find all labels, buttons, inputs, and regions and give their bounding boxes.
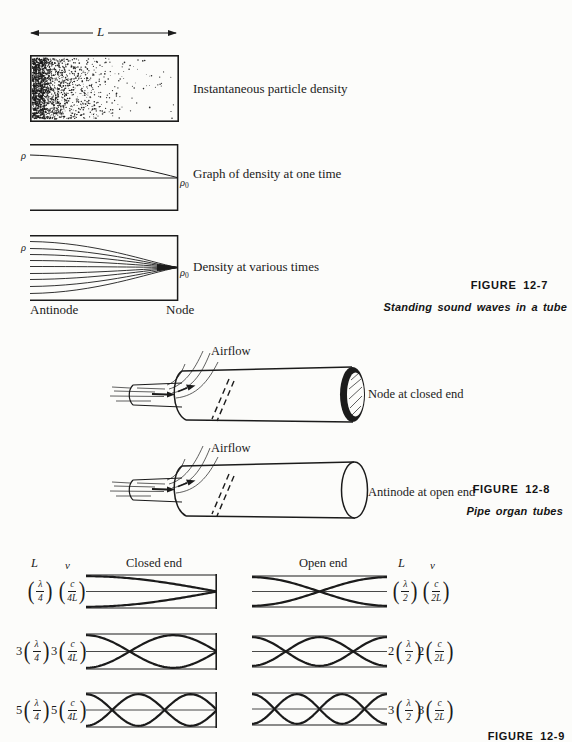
numerator: λ bbox=[36, 579, 44, 592]
close-paren bbox=[411, 578, 418, 604]
numerator: c bbox=[68, 639, 76, 652]
close-paren bbox=[43, 697, 50, 723]
coefficient: 2 bbox=[418, 644, 424, 659]
denominator: 2L bbox=[435, 711, 445, 723]
antinode-label: Antinode bbox=[30, 302, 78, 318]
node-label: Node bbox=[166, 302, 194, 318]
closed-end-column-title: Closed end bbox=[126, 556, 182, 571]
closed-row3-frequency: 5 c4L bbox=[51, 696, 87, 724]
standing-wave-closed-third-harmonic bbox=[86, 633, 217, 670]
open-column-L-header: L bbox=[398, 556, 405, 571]
open-row1-frequency: c2L bbox=[421, 577, 451, 605]
density-fan-panel bbox=[30, 235, 179, 301]
open-row1-wavelength: λ2 bbox=[391, 577, 419, 605]
numerator: λ bbox=[33, 639, 41, 652]
denominator: 2 bbox=[406, 652, 411, 664]
open-row3-wavelength: 3 λ2 bbox=[388, 696, 422, 724]
figure-12-7-label: FIGURE 12-7 bbox=[471, 279, 548, 291]
denominator: 2 bbox=[403, 592, 408, 604]
close-paren bbox=[79, 697, 86, 723]
coefficient: 5 bbox=[51, 703, 57, 718]
figure-12-8-caption: Pipe organ tubes bbox=[467, 505, 563, 517]
density-graph-panel bbox=[30, 144, 179, 211]
standing-wave-open-fundamental bbox=[252, 575, 387, 608]
close-paren bbox=[79, 578, 86, 604]
closed-row1-frequency: c4L bbox=[57, 577, 87, 605]
rho-label: ρ bbox=[21, 150, 26, 161]
close-paren bbox=[446, 697, 453, 723]
open-row2-wavelength: 2 λ2 bbox=[388, 637, 422, 665]
open-paren bbox=[426, 638, 433, 664]
closed-end-caption: Node at closed end bbox=[368, 387, 463, 402]
fraction: c2L bbox=[435, 698, 445, 723]
rho-label: ρ bbox=[21, 242, 26, 253]
close-paren bbox=[446, 638, 453, 664]
fraction: λ2 bbox=[401, 579, 409, 604]
coefficient: 3 bbox=[51, 644, 57, 659]
density-graph-caption: Graph of density at one time bbox=[193, 166, 341, 182]
closed-column-nu-header: ν bbox=[65, 559, 70, 571]
fraction: λ4 bbox=[33, 639, 41, 664]
standing-wave-closed-fundamental bbox=[86, 574, 217, 609]
close-paren bbox=[79, 638, 86, 664]
fraction: c4L bbox=[68, 698, 78, 723]
open-paren bbox=[59, 578, 66, 604]
length-label: L bbox=[93, 24, 108, 40]
open-row3-frequency: 3 c2L bbox=[418, 696, 454, 724]
open-paren bbox=[28, 578, 35, 604]
open-paren bbox=[59, 638, 66, 664]
closed-column-L-header: L bbox=[31, 556, 38, 571]
coefficient: 5 bbox=[16, 703, 22, 718]
numerator: c bbox=[435, 639, 443, 652]
fraction: λ2 bbox=[405, 698, 413, 723]
open-column-nu-header: ν bbox=[430, 559, 435, 571]
denominator: 2 bbox=[406, 711, 411, 723]
particle-density-panel bbox=[30, 55, 179, 122]
closed-row2-wavelength: 3 λ4 bbox=[16, 637, 50, 665]
coefficient: 3 bbox=[388, 703, 394, 718]
denominator: 4L bbox=[67, 592, 77, 604]
open-paren bbox=[396, 697, 403, 723]
numerator: c bbox=[435, 698, 443, 711]
close-paren bbox=[46, 578, 53, 604]
denominator: 4 bbox=[34, 652, 39, 664]
open-end-caption: Antinode at open end bbox=[368, 485, 475, 500]
denominator: 4L bbox=[68, 711, 78, 723]
closed-row2-frequency: 3 c4L bbox=[51, 637, 87, 665]
particle-density-caption: Instantaneous particle density bbox=[193, 81, 348, 97]
numerator: λ bbox=[405, 698, 413, 711]
coefficient: 3 bbox=[16, 644, 22, 659]
standing-wave-open-second-harmonic bbox=[252, 635, 387, 668]
coefficient: 3 bbox=[418, 703, 424, 718]
airflow-label: Airflow bbox=[211, 441, 251, 456]
numerator: λ bbox=[405, 639, 413, 652]
fraction: c4L bbox=[67, 579, 77, 604]
figure-12-9-label: FIGURE 12-9 bbox=[488, 730, 565, 742]
figure-12-7-caption: Standing sound waves in a tube bbox=[384, 301, 567, 313]
fraction: c4L bbox=[68, 639, 78, 664]
closed-row3-wavelength: 5 λ4 bbox=[16, 696, 50, 724]
numerator: c bbox=[68, 579, 76, 592]
open-paren bbox=[24, 697, 31, 723]
denominator: 4L bbox=[68, 652, 78, 664]
fraction: c2L bbox=[431, 579, 441, 604]
numerator: λ bbox=[401, 579, 409, 592]
fraction: λ2 bbox=[405, 639, 413, 664]
figure-12-8-label: FIGURE 12-8 bbox=[473, 483, 550, 495]
numerator: λ bbox=[33, 698, 41, 711]
open-paren bbox=[426, 697, 433, 723]
coefficient: 2 bbox=[388, 644, 394, 659]
open-end-column-title: Open end bbox=[299, 556, 347, 571]
closed-row1-wavelength: λ4 bbox=[26, 577, 54, 605]
open-paren bbox=[396, 638, 403, 664]
standing-wave-open-third-harmonic bbox=[252, 692, 387, 726]
open-paren bbox=[423, 578, 430, 604]
denominator: 4 bbox=[34, 711, 39, 723]
denominator: 2L bbox=[435, 652, 445, 664]
fraction: c2L bbox=[435, 639, 445, 664]
close-paren bbox=[43, 638, 50, 664]
standing-wave-closed-fifth-harmonic bbox=[86, 692, 217, 728]
fraction: λ4 bbox=[36, 579, 44, 604]
close-paren bbox=[443, 578, 450, 604]
open-row2-frequency: 2 c2L bbox=[418, 637, 454, 665]
